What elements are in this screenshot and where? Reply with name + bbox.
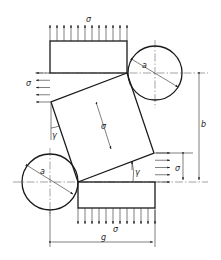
- label-angle-left: γ: [52, 131, 58, 140]
- label-stress-bottom: σ: [113, 225, 119, 234]
- label-diameter-top: a: [142, 61, 147, 70]
- right-stress-arrows: [155, 153, 170, 182]
- top-stress-arrows: [50, 25, 127, 41]
- angle-arc-left: [51, 126, 59, 128]
- bottom-stress-arrows: [78, 208, 155, 224]
- label-dimension-width: g: [101, 233, 106, 242]
- label-angle-right: γ: [135, 168, 141, 177]
- label-diameter-bottom: a: [40, 167, 45, 176]
- diameter-line-top: [133, 60, 178, 87]
- top-block: [50, 41, 127, 73]
- bottom-block: [78, 182, 155, 208]
- label-stress-left: σ: [26, 79, 32, 88]
- label-stress-right: σ: [175, 164, 181, 173]
- label-dimension-height: b: [201, 120, 206, 129]
- shear-deformation-diagram: σ a σ γ σ a σ γ σ b g: [0, 0, 221, 260]
- diameter-line-bottom: [28, 166, 73, 194]
- label-stress-top: σ: [86, 15, 92, 24]
- label-stress-center: σ: [101, 122, 107, 131]
- left-stress-arrows: [36, 73, 50, 102]
